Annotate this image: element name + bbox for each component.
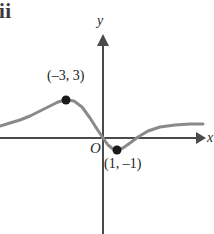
origin-label: O	[90, 141, 101, 156]
x-axis-arrowhead	[196, 132, 206, 144]
part-label: ii	[0, 1, 12, 22]
coordinate-plot	[0, 0, 214, 234]
local-minimum-point-label: (1, –1)	[104, 157, 141, 171]
local-maximum-point-marker	[62, 96, 71, 105]
y-axis-label: y	[97, 14, 103, 28]
function-curve	[0, 100, 203, 150]
local-minimum-point-marker	[113, 146, 122, 155]
y-axis-arrowhead	[97, 34, 109, 46]
local-maximum-point-label: (–3, 3)	[47, 69, 84, 83]
x-axis-label: x	[207, 131, 213, 145]
graph-figure: ii y x O (–3, 3) (1, –1)	[0, 0, 214, 234]
